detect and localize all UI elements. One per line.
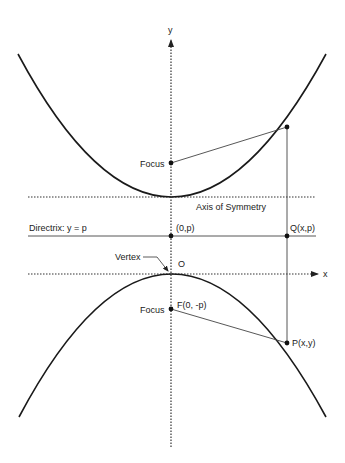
upper-point-dot bbox=[285, 125, 290, 130]
directrix-point-dot bbox=[169, 234, 174, 239]
parabola-diagram: y Axis of Symmetry x Directrix: y = p Fo… bbox=[0, 0, 345, 463]
focus-to-point-upper bbox=[171, 127, 287, 163]
lower-focus-coords-label: F(0, -p) bbox=[177, 300, 207, 310]
axis-of-symmetry-label: Axis of Symmetry bbox=[196, 202, 267, 212]
q-point-dot bbox=[285, 234, 290, 239]
vertex-label: Vertex bbox=[115, 252, 141, 262]
vertex-pointer-arrow bbox=[143, 257, 168, 271]
origin-label: O bbox=[178, 259, 185, 269]
y-axis-label: y bbox=[168, 25, 173, 35]
upper-parabola bbox=[18, 54, 326, 197]
upper-focus-dot bbox=[169, 161, 174, 166]
x-axis-label: x bbox=[323, 269, 328, 279]
focus-to-point-lower bbox=[171, 309, 287, 343]
upper-focus-label: Focus bbox=[140, 159, 165, 169]
lower-focus-label: Focus bbox=[140, 305, 165, 315]
p-point-dot bbox=[285, 341, 290, 346]
q-point-label: Q(x,p) bbox=[290, 223, 315, 233]
directrix-point-label: (0,p) bbox=[176, 223, 195, 233]
p-point-label: P(x,y) bbox=[292, 338, 316, 348]
lower-parabola bbox=[19, 274, 326, 417]
directrix-label: Directrix: y = p bbox=[29, 223, 87, 233]
lower-focus-dot bbox=[169, 307, 174, 312]
